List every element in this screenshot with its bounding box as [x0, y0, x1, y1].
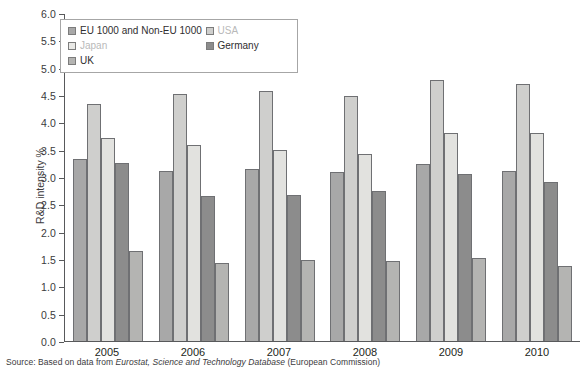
bar-usa-2005[interactable] [87, 104, 101, 341]
y-tick-label: 2.5 [4, 199, 56, 211]
y-tick-label: 0.0 [4, 336, 56, 348]
y-axis-tick-labels: 0.00.51.01.52.02.53.03.54.04.55.05.56.0 [0, 14, 56, 342]
top-spacer [0, 0, 588, 8]
bar-japan-2010[interactable] [530, 133, 544, 341]
rd-intensity-bar-chart: R&D intensity % 0.00.51.01.52.02.53.03.5… [0, 0, 588, 372]
y-tick [59, 14, 64, 15]
y-tick [59, 178, 64, 179]
bar-eu-2007[interactable] [245, 169, 259, 341]
bar-uk-2006[interactable] [215, 263, 229, 341]
bar-usa-2010[interactable] [516, 84, 530, 341]
bar-germany-2007[interactable] [287, 195, 301, 341]
y-tick-label: 3.5 [4, 145, 56, 157]
bar-uk-2010[interactable] [558, 266, 572, 341]
y-tick [59, 205, 64, 206]
bar-germany-2006[interactable] [201, 196, 215, 341]
y-tick-label: 6.0 [4, 8, 56, 20]
legend-swatch-japan-icon [68, 42, 76, 50]
y-tick-label: 3.0 [4, 172, 56, 184]
bar-eu-2005[interactable] [73, 159, 87, 341]
bar-germany-2009[interactable] [458, 174, 472, 341]
source-suffix: (European Commission) [285, 357, 380, 367]
bar-usa-2007[interactable] [259, 91, 273, 341]
y-tick-label: 0.5 [4, 309, 56, 321]
legend-item-uk[interactable]: UK [68, 55, 206, 67]
legend-label-germany: Germany [218, 41, 259, 51]
source-prefix: Source: Based on data from [6, 357, 116, 367]
bar-germany-2008[interactable] [372, 191, 386, 341]
bar-group-2010 [502, 14, 572, 341]
x-axis-label-2010: 2010 [494, 346, 580, 362]
source-note: Source: Based on data from Eurostat, Sci… [6, 357, 380, 367]
bar-uk-2007[interactable] [301, 260, 315, 341]
bar-eu-2010[interactable] [502, 171, 516, 341]
legend-swatch-germany-icon [206, 42, 214, 50]
y-tick-label: 4.5 [4, 90, 56, 102]
y-tick [59, 315, 64, 316]
legend-item-usa[interactable]: USA [206, 25, 290, 37]
y-tick [59, 260, 64, 261]
legend-item-eu[interactable]: EU 1000 and Non-EU 1000 [68, 25, 206, 37]
bar-japan-2007[interactable] [273, 150, 287, 341]
bar-japan-2009[interactable] [444, 133, 458, 341]
y-tick-label: 1.5 [4, 254, 56, 266]
legend-label-uk: UK [80, 56, 94, 66]
bar-group-2008 [330, 14, 400, 341]
y-tick [59, 123, 64, 124]
x-axis-label-2009: 2009 [408, 346, 494, 362]
bar-uk-2005[interactable] [129, 251, 143, 341]
bar-eu-2008[interactable] [330, 172, 344, 341]
legend-label-japan: Japan [80, 41, 107, 51]
source-italic: Eurostat, Science and Technology Databas… [116, 357, 286, 367]
bar-germany-2005[interactable] [115, 163, 129, 341]
y-tick-label: 2.0 [4, 227, 56, 239]
bar-group-2009 [416, 14, 486, 341]
bar-uk-2009[interactable] [472, 258, 486, 341]
y-tick-label: 5.0 [4, 63, 56, 75]
chart-legend: EU 1000 and Non-EU 1000 Japan UK USA [60, 19, 298, 73]
y-tick-label: 1.0 [4, 281, 56, 293]
legend-label-eu: EU 1000 and Non-EU 1000 [80, 26, 202, 36]
legend-label-usa: USA [218, 26, 239, 36]
x-axis-line [64, 341, 580, 342]
legend-swatch-usa-icon [206, 27, 214, 35]
y-tick [59, 342, 64, 343]
bar-usa-2006[interactable] [173, 94, 187, 341]
legend-swatch-eu-icon [68, 27, 76, 35]
bar-usa-2009[interactable] [430, 80, 444, 341]
bar-germany-2010[interactable] [544, 182, 558, 341]
y-tick-label: 4.0 [4, 117, 56, 129]
legend-swatch-uk-icon [68, 57, 76, 65]
legend-item-germany[interactable]: Germany [206, 40, 290, 52]
bar-eu-2006[interactable] [159, 171, 173, 341]
y-tick [59, 233, 64, 234]
bar-japan-2006[interactable] [187, 145, 201, 341]
bar-uk-2008[interactable] [386, 261, 400, 341]
y-tick [59, 151, 64, 152]
bar-japan-2005[interactable] [101, 138, 115, 341]
y-tick-label: 5.5 [4, 35, 56, 47]
bar-eu-2009[interactable] [416, 164, 430, 341]
y-tick [59, 96, 64, 97]
bar-usa-2008[interactable] [344, 96, 358, 341]
y-tick [59, 287, 64, 288]
bar-japan-2008[interactable] [358, 154, 372, 341]
legend-item-japan[interactable]: Japan [68, 40, 206, 52]
